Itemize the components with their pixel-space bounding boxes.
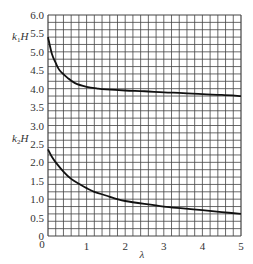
svg-text:4.0: 4.0 (30, 83, 44, 95)
y-axis-ticks: 00.51.01.52.02.53.03.54.04.55.05.56.0 (30, 9, 44, 242)
svg-text:6.0: 6.0 (30, 9, 44, 21)
svg-text:2.0: 2.0 (30, 156, 44, 168)
svg-text:0.5: 0.5 (30, 212, 44, 224)
chart: 00.51.01.52.02.53.03.54.04.55.05.56.0 12… (0, 0, 253, 264)
svg-text:4.5: 4.5 (30, 64, 44, 76)
svg-text:5: 5 (238, 240, 244, 252)
curve-k2H (48, 149, 241, 213)
svg-text:1.5: 1.5 (30, 175, 44, 187)
svg-text:4: 4 (200, 240, 206, 252)
svg-text:3.0: 3.0 (30, 120, 44, 132)
svg-text:3.5: 3.5 (30, 101, 44, 113)
x-axis-label: λ (139, 248, 145, 260)
svg-text:2.5: 2.5 (30, 138, 44, 150)
y-label-k2H: k2H (12, 132, 29, 146)
y-label-k1H: k1H (12, 30, 29, 44)
svg-text:1: 1 (84, 240, 90, 252)
grid (48, 15, 241, 236)
svg-text:5.5: 5.5 (30, 27, 44, 39)
svg-text:5.0: 5.0 (30, 46, 44, 58)
svg-text:2: 2 (122, 240, 128, 252)
svg-text:3: 3 (161, 240, 167, 252)
svg-text:1.0: 1.0 (30, 193, 44, 205)
svg-text:0: 0 (39, 238, 45, 250)
